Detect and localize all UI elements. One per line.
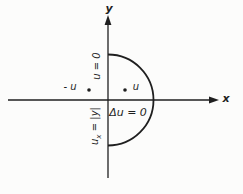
y-axis-label: y — [105, 3, 112, 14]
lower-boundary-condition-label: ux = |y| — [90, 107, 100, 145]
lower-boundary-equation-rest: = |y| — [89, 107, 100, 134]
point-marker-left-icon — [87, 88, 91, 92]
x-axis-arrow-icon — [209, 97, 219, 104]
point-marker-right-icon — [123, 88, 127, 92]
point-left-label: - u — [63, 82, 76, 92]
upper-boundary-condition-label: u = 0 — [92, 52, 102, 79]
x-axis-label: x — [222, 93, 229, 104]
point-right-label: u — [133, 82, 139, 92]
diagram-canvas — [0, 0, 243, 194]
half-disc-boundary-value-diagram: y x u = 0 ux = |y| Δu = 0 - u u — [0, 0, 243, 194]
domain-equation-label: Δu = 0 — [109, 107, 147, 118]
lower-boundary-subscript: x — [94, 134, 103, 138]
y-axis-arrow-icon — [105, 15, 112, 25]
lower-boundary-variable: u — [89, 139, 100, 145]
